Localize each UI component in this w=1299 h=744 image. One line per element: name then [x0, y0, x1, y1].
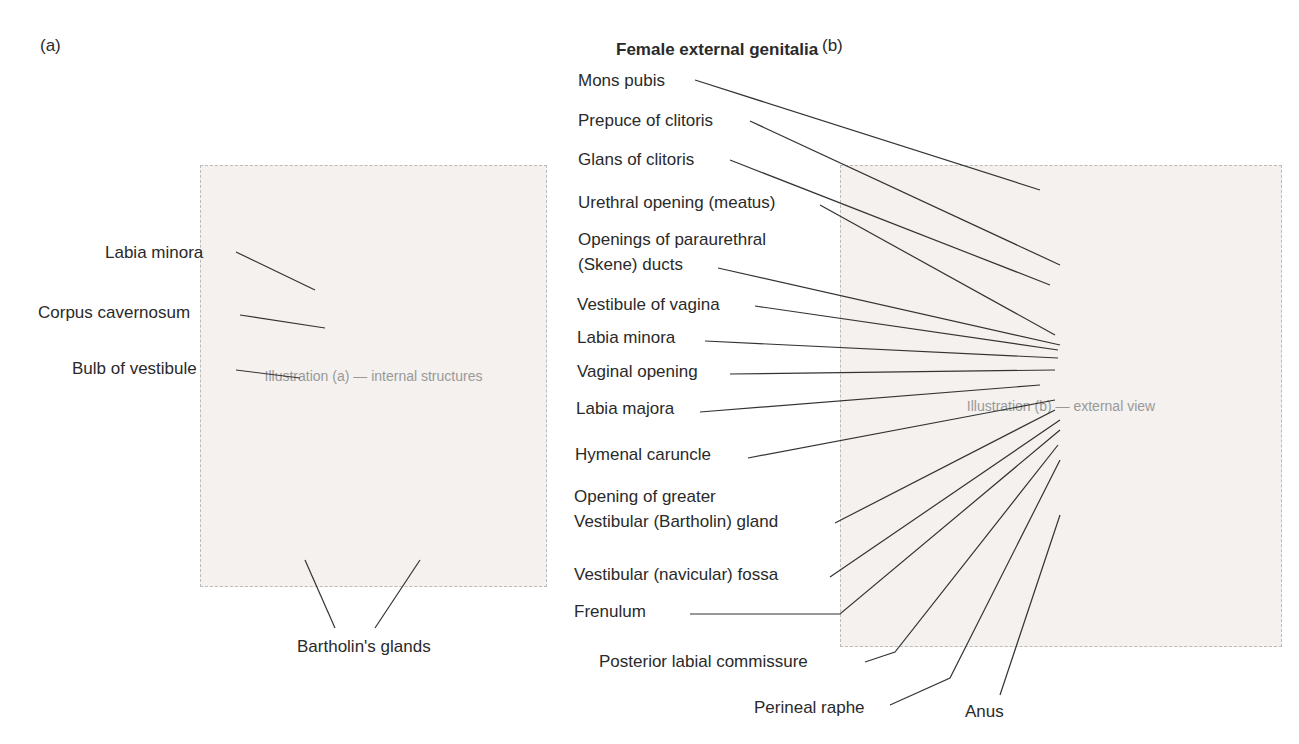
label-b-4: Openings of paraurethral — [578, 230, 766, 250]
label-b-7: Labia minora — [577, 328, 675, 348]
label-b-10: Hymenal caruncle — [575, 445, 711, 465]
label-b-13: Vestibular (navicular) fossa — [574, 565, 778, 585]
label-a-1: Corpus cavernosum — [38, 303, 190, 323]
panel-b-letter: (b) — [822, 36, 843, 56]
label-b-17: Anus — [965, 702, 1004, 722]
label-b-0: Mons pubis — [578, 71, 665, 91]
label-b-5: (Skene) ducts — [578, 255, 683, 275]
label-b-2: Glans of clitoris — [578, 150, 694, 170]
label-b-8: Vaginal opening — [577, 362, 698, 382]
label-a-3: Bartholin's glands — [297, 637, 431, 657]
label-b-9: Labia majora — [576, 399, 674, 419]
diagram-title: Female external genitalia — [616, 40, 818, 60]
label-b-3: Urethral opening (meatus) — [578, 193, 775, 213]
label-a-0: Labia minora — [105, 243, 203, 263]
label-b-6: Vestibule of vagina — [577, 295, 720, 315]
label-b-1: Prepuce of clitoris — [578, 111, 713, 131]
label-b-14: Frenulum — [574, 602, 646, 622]
label-b-16: Perineal raphe — [754, 698, 865, 718]
label-b-12: Vestibular (Bartholin) gland — [574, 512, 778, 532]
label-a-2: Bulb of vestibule — [72, 359, 197, 379]
panel-a-letter: (a) — [40, 36, 61, 56]
label-b-11: Opening of greater — [574, 487, 716, 507]
label-b-15: Posterior labial commissure — [599, 652, 808, 672]
